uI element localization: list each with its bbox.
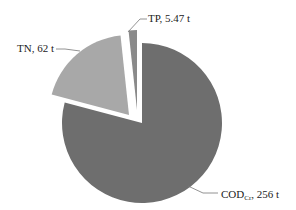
label-cod-value: , 256 t (251, 188, 279, 200)
pie-slice-tp (129, 30, 137, 110)
pie-chart (0, 0, 296, 210)
label-cod: CODCr, 256 t (221, 188, 279, 204)
leader-line-tn (56, 49, 80, 51)
label-cod-main: COD (221, 188, 244, 200)
pie-slice-tn (52, 35, 129, 115)
leader-line-tp (128, 19, 147, 32)
label-tp: TP, 5.47 t (148, 12, 190, 24)
leader-line-cod (188, 186, 218, 193)
pie-slices (52, 30, 222, 203)
label-tn: TN, 62 t (17, 42, 54, 54)
